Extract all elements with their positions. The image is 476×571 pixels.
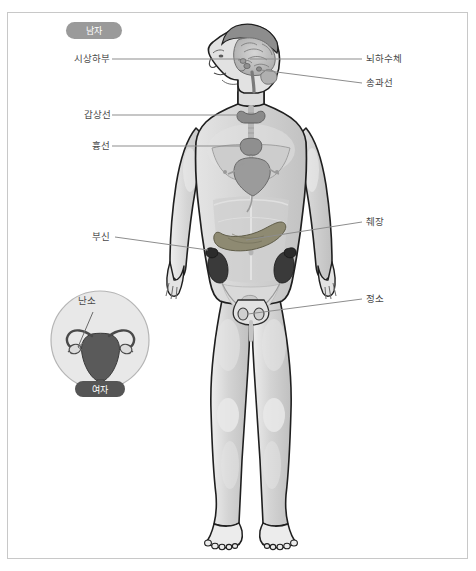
badge-male: 남자 xyxy=(66,22,122,39)
organ-testis-left xyxy=(238,308,248,320)
label-hypothalamus: 시상하부 xyxy=(74,54,110,64)
head-and-neck xyxy=(209,24,280,106)
label-pineal: 송과선 xyxy=(366,78,393,88)
organ-pituitary xyxy=(244,63,250,68)
badge-female: 여자 xyxy=(75,381,125,397)
organ-pineal xyxy=(256,67,261,71)
organ-thymus xyxy=(240,138,262,155)
label-thymus: 흉선 xyxy=(92,141,110,151)
organ-adrenal-right xyxy=(284,248,296,258)
inset-label-ovary: 난소 xyxy=(78,296,96,306)
label-testis: 정소 xyxy=(366,294,384,304)
label-adrenal: 부신 xyxy=(92,232,110,242)
feet xyxy=(205,523,298,550)
label-thyroid: 갑상선 xyxy=(84,110,111,120)
organ-testis-right xyxy=(254,308,264,320)
human-body-illustration xyxy=(0,0,476,571)
leader-adrenal xyxy=(115,237,208,250)
endocrine-system-figure: 난소 남자 여자 시상하부 갑상선 흉선 부신 뇌하수체 송과선 췌장 정소 xyxy=(0,0,476,571)
label-pancreas: 췌장 xyxy=(366,217,384,227)
organ-adrenal-left xyxy=(206,248,218,258)
organ-hypothalamus xyxy=(240,59,246,64)
label-pituitary: 뇌하수체 xyxy=(366,54,402,64)
